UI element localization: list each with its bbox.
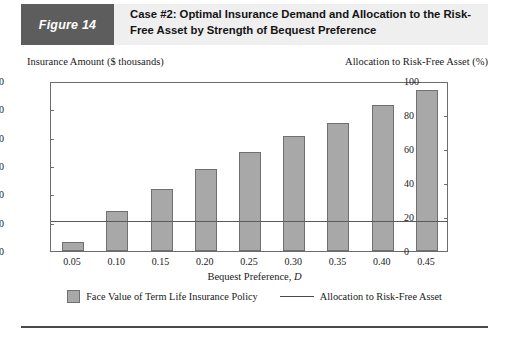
y-tick-mark-left [50,167,54,168]
y-tick-label-left: 500 [0,104,4,115]
legend-line-swatch-icon [280,296,314,297]
y-tick-label-right: 60 [404,144,444,155]
risk-free-allocation-line [51,221,447,222]
legend-item-bars: Face Value of Term Life Insurance Policy [67,290,258,303]
plot-area [50,82,448,252]
y-tick-mark-right [444,218,448,219]
y-tick-label-left: 400 [0,133,4,144]
bar-0.35 [327,123,349,251]
figure-container: Figure 14 Case #2: Optimal Insurance Dem… [0,0,509,339]
y-tick-mark-left [50,110,54,111]
x-tick-label: 0.10 [96,256,136,267]
y-tick-mark-left [50,139,54,140]
right-axis-caption: Allocation to Risk-Free Asset (%) [345,56,488,67]
x-axis-title-text: Bequest Preference, D [207,271,301,282]
bar-0.25 [239,152,261,251]
y-tick-label-left: 600 [0,76,4,87]
y-tick-label-right: 100 [404,76,444,87]
y-tick-mark-right [444,116,448,117]
y-tick-mark-left [50,195,54,196]
chart-legend: Face Value of Term Life Insurance Policy… [0,290,509,303]
figure-title: Case #2: Optimal Insurance Demand and Al… [130,7,475,38]
y-tick-label-right: 80 [404,110,444,121]
figure-number-badge: Figure 14 [21,4,114,45]
y-tick-mark-left [50,224,54,225]
x-tick-label: 0.20 [185,256,225,267]
y-tick-label-left: 0 [0,246,4,257]
y-tick-label-left: 300 [0,161,4,172]
x-tick-label: 0.40 [362,256,402,267]
x-tick-label: 0.30 [273,256,313,267]
plot-inner [51,83,447,251]
bar-0.30 [283,136,305,251]
figure-number-label: Figure 14 [39,18,96,32]
y-tick-label-right: 40 [404,178,444,189]
y-tick-label-left: 100 [0,218,4,229]
y-tick-mark-right [444,184,448,185]
legend-bar-swatch-icon [67,290,80,303]
x-axis-title: Bequest Preference, D [0,271,509,282]
y-tick-mark-right [444,150,448,151]
y-tick-label-right: 20 [404,212,444,223]
bar-0.10 [106,211,128,251]
left-axis-caption: Insurance Amount ($ thousands) [27,56,164,67]
bar-0.05 [62,242,84,251]
x-tick-label: 0.05 [52,256,92,267]
y-tick-label-left: 200 [0,189,4,200]
x-tick-label: 0.35 [317,256,357,267]
legend-item-line: Allocation to Risk-Free Asset [280,291,442,302]
bar-0.20 [195,169,217,251]
legend-line-label: Allocation to Risk-Free Asset [320,291,442,302]
bar-0.40 [372,105,394,251]
x-tick-label: 0.45 [406,256,446,267]
x-tick-label: 0.15 [141,256,181,267]
legend-bar-label: Face Value of Term Life Insurance Policy [86,291,258,302]
bottom-divider [21,326,488,328]
bar-0.15 [151,189,173,251]
x-tick-label: 0.25 [229,256,269,267]
